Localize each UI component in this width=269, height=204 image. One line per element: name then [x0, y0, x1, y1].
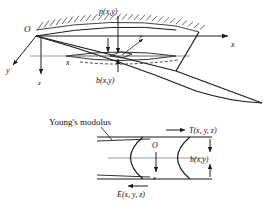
canvas-background	[0, 0, 269, 204]
axis-z-label-upper: z	[37, 79, 41, 87]
pressure-label: p(x,y)	[98, 7, 118, 16]
width-label-upper: b(x,y)	[96, 76, 115, 85]
youngs-modulus-caption: Young's modolus	[49, 117, 111, 127]
coordinate-x-label: x	[65, 58, 70, 67]
axis-y-label-upper: y	[5, 66, 10, 75]
origin-label-upper: O	[24, 24, 31, 34]
width-label-lower: b(x,y)	[190, 155, 209, 164]
figure-root: x y z O x p(x,y) y b(x,y)	[0, 0, 269, 204]
modulus-label: E(x, y, z)	[116, 190, 145, 199]
fracture-diagram-svg: x y z O x p(x,y) y b(x,y)	[0, 0, 269, 204]
axis-z-label-lower: z	[152, 174, 156, 182]
origin-label-lower: O	[152, 141, 158, 150]
traction-label: T(x, y, z)	[189, 126, 217, 135]
axis-x-label-upper: x	[230, 40, 235, 49]
